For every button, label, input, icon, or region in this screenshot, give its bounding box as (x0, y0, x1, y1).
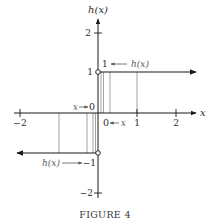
y-tick-label-2: 2 (85, 28, 91, 38)
x-tick-label-1: 1 (134, 118, 140, 128)
annotation-lower-h: h(x) (42, 158, 60, 168)
annotation-upper-one: 1 (102, 59, 108, 69)
y-tick-label-m2: −2 (80, 188, 93, 198)
figure-caption: FIGURE 4 (79, 209, 131, 220)
figure-4-plot: h(x) x 2 1 −1 −2 −2 1 2 1 h(x) x 0 0 x h… (0, 0, 210, 221)
annotation-x-to: x (73, 102, 78, 112)
y-tick-label-1: 1 (87, 67, 93, 77)
annotation-x-to-zero: 0 (89, 101, 95, 112)
y-tick-label-m1: −1 (83, 158, 96, 168)
open-circle-lower (96, 151, 101, 156)
annotation-zero-from-x: x (121, 118, 126, 128)
annotation-upper-h: h(x) (131, 59, 149, 69)
x-axis-label: x (200, 107, 206, 118)
y-axis-label: h(x) (88, 4, 108, 15)
x-tick-label-m2: −2 (13, 118, 26, 128)
guide-lines-upper (101, 72, 137, 113)
annotation-zero-from: 0 (103, 117, 109, 128)
x-tick-label-2: 2 (173, 118, 179, 128)
guide-lines-lower (59, 113, 96, 153)
open-circle-upper (96, 70, 101, 75)
